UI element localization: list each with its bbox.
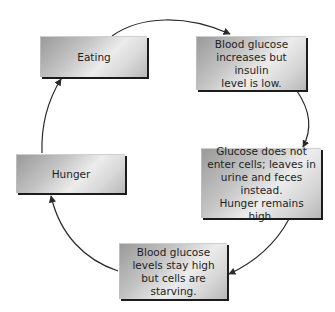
arrow-glucose-to-starving: [229, 219, 289, 274]
node-eating-label: Eating: [77, 51, 110, 64]
node-hunger: Hunger: [16, 154, 125, 193]
node-glucose-increases: Blood glucose increases but insulin leve…: [196, 36, 306, 90]
node-cells-starving-label: Blood glucose levels stay high but cells…: [124, 246, 223, 298]
cycle-diagram: Eating Blood glucose increases but insul…: [0, 0, 335, 312]
node-glucose-not-entering-cells-label: Glucose does not enter cells; leaves in …: [206, 145, 317, 223]
arrow-eating-to-increase: [112, 20, 230, 36]
node-hunger-label: Hunger: [52, 168, 91, 181]
arrow-increase-to-glucose: [297, 91, 309, 147]
node-cells-starving: Blood glucose levels stay high but cells…: [119, 243, 227, 299]
node-eating: Eating: [40, 36, 147, 77]
node-glucose-increases-label: Blood glucose increases but insulin leve…: [201, 38, 302, 90]
arrow-starving-to-hunger: [51, 196, 118, 271]
node-glucose-not-entering-cells: Glucose does not enter cells; leaves in …: [201, 148, 321, 218]
arrow-hunger-to-eating: [42, 79, 61, 153]
